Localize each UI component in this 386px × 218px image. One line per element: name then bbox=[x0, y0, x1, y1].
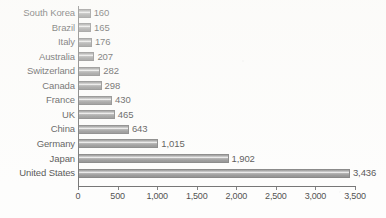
bar-row: Switzerland282 bbox=[0, 64, 386, 78]
x-axis-tick bbox=[78, 187, 79, 190]
bar bbox=[78, 169, 350, 178]
bar bbox=[78, 125, 129, 134]
bar-value-label: 430 bbox=[115, 93, 131, 107]
chart-page: South Korea160Brazil165Italy176Australia… bbox=[0, 0, 386, 218]
bar bbox=[78, 52, 94, 61]
bar-row: Australia207 bbox=[0, 50, 386, 64]
bar-value-label: 282 bbox=[103, 64, 119, 78]
category-label: China bbox=[0, 122, 75, 136]
category-label: United States bbox=[0, 166, 75, 180]
x-axis-line bbox=[78, 186, 356, 187]
bar-row: South Korea160 bbox=[0, 6, 386, 20]
horizontal-bar-chart: South Korea160Brazil165Italy176Australia… bbox=[0, 0, 386, 218]
bar-row: Canada298 bbox=[0, 79, 386, 93]
bar bbox=[78, 139, 158, 148]
category-label: Brazil bbox=[0, 21, 75, 35]
bar-row: China643 bbox=[0, 122, 386, 136]
category-label: South Korea bbox=[0, 6, 75, 20]
bar-row: Brazil165 bbox=[0, 21, 386, 35]
bar-value-label: 298 bbox=[105, 79, 121, 93]
x-axis-tick-label: 2,500 bbox=[265, 191, 287, 201]
bar bbox=[78, 81, 102, 90]
bar-value-label: 3,436 bbox=[353, 166, 376, 180]
bar-row: United States3,436 bbox=[0, 166, 386, 180]
category-label: Australia bbox=[0, 50, 75, 64]
x-axis-tick-label: 3,000 bbox=[305, 191, 327, 201]
bar-value-label: 643 bbox=[132, 122, 148, 136]
x-axis-tick-label: 500 bbox=[110, 191, 124, 201]
x-axis-tick-label: 0 bbox=[76, 191, 81, 201]
bar-value-label: 465 bbox=[118, 108, 134, 122]
category-label: UK bbox=[0, 108, 75, 122]
bar bbox=[78, 38, 92, 47]
bar bbox=[78, 23, 91, 32]
category-label: Canada bbox=[0, 79, 75, 93]
x-axis-tick bbox=[118, 187, 119, 190]
x-axis-tick-label: 1,500 bbox=[186, 191, 208, 201]
bar bbox=[78, 9, 91, 18]
x-axis-tick-label: 2,000 bbox=[226, 191, 248, 201]
x-axis-tick bbox=[276, 187, 277, 190]
x-axis-tick bbox=[236, 187, 237, 190]
bar-value-label: 160 bbox=[94, 6, 110, 20]
category-label: Italy bbox=[0, 35, 75, 49]
y-axis-line bbox=[78, 6, 79, 186]
bar-row: Italy176 bbox=[0, 35, 386, 49]
category-label: France bbox=[0, 93, 75, 107]
bar-value-label: 165 bbox=[94, 21, 110, 35]
category-label: Switzerland bbox=[0, 64, 75, 78]
x-axis-tick-label: 3,500 bbox=[344, 191, 366, 201]
bar-value-label: 1,902 bbox=[232, 152, 255, 166]
bar-row: Germany1,015 bbox=[0, 137, 386, 151]
x-axis-tick bbox=[157, 187, 158, 190]
bar-row: UK465 bbox=[0, 108, 386, 122]
x-axis-tick bbox=[197, 187, 198, 190]
bar-value-label: 207 bbox=[97, 50, 113, 64]
category-label: Germany bbox=[0, 137, 75, 151]
bar-value-label: 1,015 bbox=[161, 137, 184, 151]
category-label: Japan bbox=[0, 152, 75, 166]
bar bbox=[78, 154, 229, 163]
x-axis-tick bbox=[315, 187, 316, 190]
bar bbox=[78, 96, 112, 105]
bar-value-label: 176 bbox=[95, 35, 111, 49]
bar bbox=[78, 110, 115, 119]
bar-row: France430 bbox=[0, 93, 386, 107]
x-axis-tick-label: 1,000 bbox=[146, 191, 168, 201]
bar-row: Japan1,902 bbox=[0, 152, 386, 166]
bar bbox=[78, 67, 100, 76]
x-axis-tick bbox=[355, 187, 356, 190]
